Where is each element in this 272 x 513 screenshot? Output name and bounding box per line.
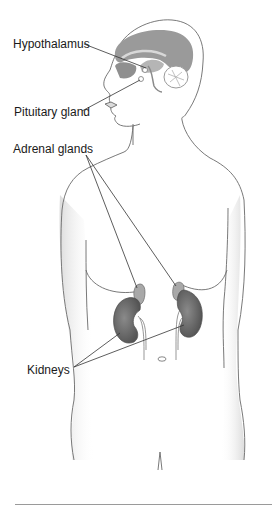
label-hypothalamus: Hypothalamus <box>13 37 90 51</box>
kidney-right <box>177 290 202 337</box>
label-adrenal-glands: Adrenal glands <box>13 142 93 156</box>
ureter-left <box>138 316 146 360</box>
endocrine-diagram <box>0 0 272 513</box>
kidneys <box>114 290 203 360</box>
brain <box>115 30 193 92</box>
adrenal-glands <box>134 282 184 304</box>
hypothalamus-gland <box>143 68 148 73</box>
label-kidneys: Kidneys <box>27 363 70 377</box>
torso-shading <box>60 195 245 460</box>
ureter-right <box>176 310 182 360</box>
bottom-divider <box>15 504 272 505</box>
leader-adrenal-right <box>86 155 176 286</box>
label-pituitary-gland: Pituitary gland <box>14 105 90 119</box>
leader-adrenal-left <box>86 155 137 288</box>
kidney-left <box>114 298 141 343</box>
navel <box>158 357 166 361</box>
